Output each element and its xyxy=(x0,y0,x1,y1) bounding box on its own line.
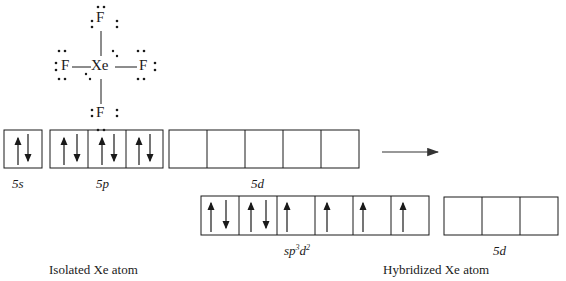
label-5s: 5s xyxy=(12,176,24,192)
electron-arrows-hybrid xyxy=(211,200,403,232)
caption-isolated: Isolated Xe atom xyxy=(49,262,138,278)
label-5d: 5d xyxy=(251,176,264,192)
orbital-5d xyxy=(169,130,359,168)
label-sp3d2: sp3d2 xyxy=(284,243,310,259)
label-sp: sp xyxy=(284,243,296,258)
atom-xe: Xe xyxy=(91,57,109,74)
label-hybrid-5d: 5d xyxy=(493,243,506,259)
orbital-5p xyxy=(50,130,163,168)
caption-hybridized: Hybridized Xe atom xyxy=(383,262,489,278)
label-sup-2: 2 xyxy=(306,243,310,252)
orbital-diagram xyxy=(0,0,566,281)
orbital-5s xyxy=(4,130,42,168)
atom-f-right: F xyxy=(139,57,147,74)
atom-f-top: F xyxy=(96,9,104,26)
electron-arrows-isolated xyxy=(18,134,150,165)
orbital-hybrid-5d xyxy=(444,197,558,235)
atom-f-left: F xyxy=(61,57,69,74)
label-5p: 5p xyxy=(96,176,109,192)
orbital-sp3d2 xyxy=(201,196,429,235)
atom-f-bottom: F xyxy=(96,104,104,121)
